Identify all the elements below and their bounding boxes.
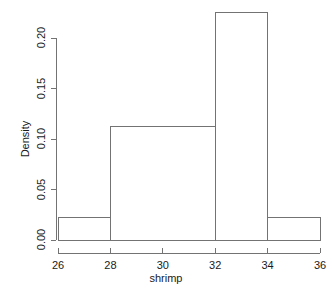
- x-axis-tick-label: 32: [202, 260, 228, 271]
- histogram-bar: [215, 13, 267, 240]
- y-axis-tick-label: 0.05: [36, 172, 47, 206]
- y-axis-tick-label: 0.20: [36, 21, 47, 55]
- plot-canvas: [0, 0, 332, 292]
- y-axis-tick-label: 0.10: [36, 122, 47, 156]
- y-axis-tick-label: 0.00: [36, 223, 47, 257]
- x-axis: [58, 248, 320, 253]
- histogram-plot: 0.000.050.100.150.20 262830323436 Densit…: [0, 0, 332, 292]
- y-axis: [51, 38, 56, 240]
- x-axis-tick-label: 26: [45, 260, 71, 271]
- y-axis-title: Density: [19, 109, 31, 169]
- x-axis-title: shrimp: [0, 272, 332, 284]
- y-axis-tick-label: 0.15: [36, 71, 47, 105]
- x-axis-tick-label: 28: [97, 260, 123, 271]
- x-axis-tick-label: 34: [255, 260, 281, 271]
- histogram-bar: [110, 126, 215, 240]
- x-axis-tick-label: 30: [150, 260, 176, 271]
- histogram-bar: [58, 217, 110, 240]
- x-axis-tick-label: 36: [307, 260, 332, 271]
- histogram-bar: [268, 217, 320, 240]
- histogram-bars: [58, 13, 320, 240]
